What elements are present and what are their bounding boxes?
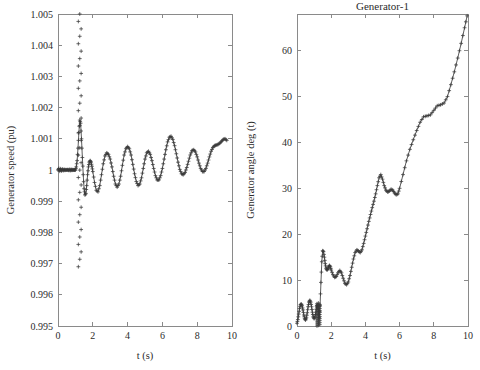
x-tick-label: 0 <box>56 330 61 341</box>
y-tick-label: 1.004 <box>31 40 54 51</box>
chart-generator-angle: 02468100102030405060t (s)Generator angle… <box>240 0 480 370</box>
generator-speed-svg: 02468100.9950.9960.9970.9980.99911.0011.… <box>0 0 240 370</box>
x-tick-label: 8 <box>195 330 200 341</box>
y-tick-label: 60 <box>282 45 292 56</box>
y-tick-label: 0 <box>287 321 292 332</box>
y-tick-label: 20 <box>282 229 292 240</box>
x-tick-label: 10 <box>463 330 473 341</box>
y-tick-label: 0.996 <box>31 289 54 300</box>
x-axis-title: t (s) <box>137 350 154 362</box>
y-tick-label: 0.995 <box>31 321 54 332</box>
y-tick-label: 1.003 <box>31 71 54 82</box>
y-tick-label: 30 <box>282 183 292 194</box>
x-tick-label: 4 <box>363 330 368 341</box>
chart-generator-speed: 02468100.9950.9960.9970.9980.99911.0011.… <box>0 0 240 370</box>
y-tick-label: 40 <box>282 137 292 148</box>
x-tick-label: 6 <box>397 330 402 341</box>
y-tick-label: 0.997 <box>31 258 54 269</box>
y-tick-label: 1 <box>48 165 53 176</box>
x-tick-label: 2 <box>90 330 95 341</box>
y-tick-label: 1.002 <box>31 102 54 113</box>
x-axis-title: t (s) <box>374 350 391 362</box>
plot-frame <box>297 14 468 326</box>
x-tick-label: 10 <box>227 330 237 341</box>
y-tick-label: 10 <box>282 275 292 286</box>
y-tick-label: 0.998 <box>31 227 54 238</box>
y-axis-title: Generator angle deg (t) <box>245 121 257 219</box>
x-tick-label: 8 <box>431 330 436 341</box>
y-tick-label: 0.999 <box>31 196 54 207</box>
y-tick-label: 50 <box>282 91 292 102</box>
x-tick-label: 0 <box>295 330 300 341</box>
generator-angle-svg: 02468100102030405060t (s)Generator angle… <box>240 0 480 370</box>
x-tick-label: 4 <box>125 330 130 341</box>
y-axis-title: Generator speed (pu) <box>5 125 17 214</box>
figure-two-panel-plot: 02468100.9950.9960.9970.9980.99911.0011.… <box>0 0 480 370</box>
y-tick-label: 1.001 <box>31 133 54 144</box>
y-tick-label: 1.005 <box>31 9 54 20</box>
x-tick-label: 2 <box>329 330 334 341</box>
x-tick-label: 6 <box>160 330 165 341</box>
plot-title: Generator-1 <box>356 0 409 12</box>
